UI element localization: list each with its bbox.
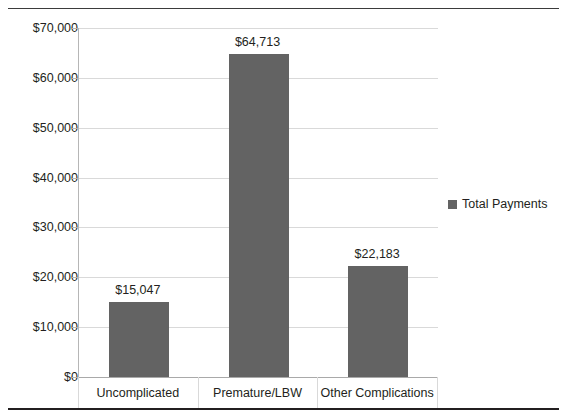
gridline	[79, 28, 438, 29]
x-axis-separator	[437, 377, 438, 408]
bar-value-label: $15,047	[115, 283, 160, 297]
y-axis-tick-label: $0	[8, 370, 78, 384]
legend-label: Total Payments	[462, 197, 547, 211]
chart-page: $0$10,000$20,000$30,000$40,000$50,000$60…	[0, 0, 567, 417]
x-axis-separator	[198, 377, 199, 408]
y-axis-tick-label: $60,000	[8, 71, 78, 85]
y-axis-tick-label: $30,000	[8, 220, 78, 234]
bar-value-label: $64,713	[235, 35, 280, 49]
x-axis-separator	[317, 377, 318, 408]
top-rule	[8, 8, 559, 9]
clipped-title	[0, 0, 567, 5]
bar	[229, 54, 289, 377]
y-axis-tick-label: $20,000	[8, 270, 78, 284]
x-axis-separator	[78, 377, 79, 408]
x-axis: UncomplicatedPremature/LBWOther Complica…	[78, 377, 437, 408]
chart-legend: Total Payments	[448, 197, 547, 211]
y-axis-tick-label: $70,000	[8, 21, 78, 35]
bar-value-label: $22,183	[355, 247, 400, 261]
y-axis-tick-label: $50,000	[8, 121, 78, 135]
bar	[109, 302, 169, 377]
y-axis-tick-label: $10,000	[8, 320, 78, 334]
legend-swatch-icon	[448, 200, 457, 209]
bottom-rule	[8, 408, 559, 410]
x-axis-category-label: Premature/LBW	[213, 386, 302, 400]
x-axis-category-label: Uncomplicated	[96, 386, 179, 400]
y-axis-tick-label: $40,000	[8, 171, 78, 185]
plot-area	[78, 28, 438, 377]
bar	[348, 266, 408, 377]
y-axis: $0$10,000$20,000$30,000$40,000$50,000$60…	[0, 0, 78, 417]
x-axis-category-label: Other Complications	[321, 386, 434, 400]
